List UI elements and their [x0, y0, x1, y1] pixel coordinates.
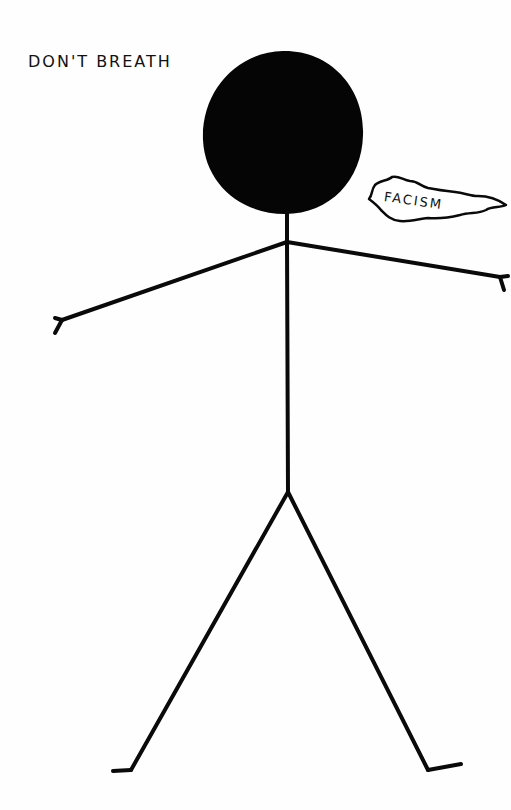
- caption-text: DON'T BREATH: [28, 52, 172, 71]
- figure-head: [203, 51, 363, 214]
- stick-figure-illustration: DON'T BREATH: [0, 0, 511, 810]
- figure-right-arm: [287, 242, 508, 290]
- figure-left-arm: [55, 242, 287, 333]
- figure-left-leg: [113, 492, 288, 771]
- drawing-canvas: DON'T BREATH: [0, 0, 511, 810]
- figure-body: [287, 212, 288, 492]
- figure-right-leg: [288, 492, 461, 770]
- speech-bubble: FACISM: [369, 177, 506, 222]
